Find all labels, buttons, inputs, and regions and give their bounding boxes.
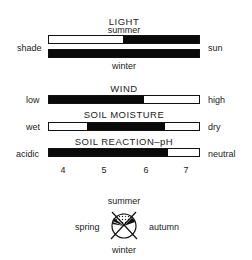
ph-tick-4: 4 bbox=[60, 165, 65, 175]
light-summer-bar bbox=[48, 35, 200, 44]
season-autumn-label: autumn bbox=[149, 222, 179, 232]
season-wheel-icon bbox=[106, 206, 142, 246]
season-summer-label: summer bbox=[108, 196, 141, 206]
wind-high-label: high bbox=[208, 95, 225, 105]
season-winter-label: winter bbox=[112, 245, 136, 255]
light-sun-label: sun bbox=[208, 43, 223, 53]
wind-low-label: low bbox=[26, 95, 40, 105]
moisture-title: SOIL MOISTURE bbox=[84, 110, 165, 120]
moisture-bar bbox=[48, 122, 200, 131]
ph-acidic-label: acidic bbox=[16, 149, 39, 159]
ph-tick-7: 7 bbox=[183, 165, 188, 175]
season-spring-label: spring bbox=[75, 222, 100, 232]
ph-title: SOIL REACTION–pH bbox=[75, 137, 173, 147]
moisture-wet-label: wet bbox=[26, 122, 40, 132]
ph-tick-6: 6 bbox=[143, 165, 148, 175]
light-summer-label: summer bbox=[108, 25, 141, 35]
ph-tick-5: 5 bbox=[101, 165, 106, 175]
wind-bar bbox=[48, 95, 200, 104]
moisture-dry-label: dry bbox=[208, 122, 221, 132]
ph-neutral-label: neutral bbox=[208, 149, 236, 159]
wind-title: WIND bbox=[110, 84, 137, 94]
light-shade-label: shade bbox=[17, 43, 42, 53]
ph-bar bbox=[48, 148, 200, 157]
light-winter-bar bbox=[48, 49, 200, 58]
light-winter-label: winter bbox=[112, 61, 136, 71]
